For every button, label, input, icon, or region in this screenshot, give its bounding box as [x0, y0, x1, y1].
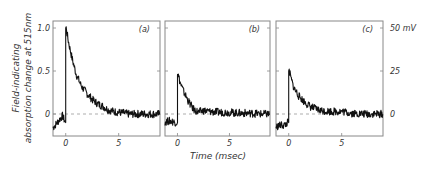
panel-frame	[276, 21, 383, 136]
right-tick-label: 50 mV	[390, 24, 417, 33]
panel-label: (c)	[362, 25, 373, 34]
x-tick-label: 5	[339, 139, 344, 148]
signal-trace	[165, 74, 270, 126]
panel-frame	[165, 21, 270, 136]
y-axis-label: Field-indicating absorption change at 51…	[11, 13, 33, 144]
figure: Field-indicating absorption change at 51…	[0, 0, 426, 169]
left-tick-label: 0	[45, 110, 50, 119]
panel-label: (a)	[139, 25, 150, 34]
y-axis-label-line-2: absorption change at 515nm	[23, 13, 33, 144]
x-tick-label: 0	[286, 139, 291, 148]
right-tick-label: 0	[390, 110, 395, 119]
right-tick-label: 25	[390, 67, 400, 76]
x-tick-label: 0	[175, 139, 180, 148]
x-tick-label: 0	[63, 139, 68, 148]
x-tick-label: 5	[227, 139, 232, 148]
signal-trace	[53, 27, 160, 130]
signal-trace	[276, 69, 383, 130]
right-y-tick-labels: 02550 mV	[390, 24, 417, 119]
panel-a: 05(a)	[53, 21, 160, 148]
y-axis-label-line-1: Field-indicating	[11, 43, 21, 112]
panel-label: (b)	[249, 25, 260, 34]
panel-frame	[53, 21, 160, 136]
x-axis-label: Time (msec)	[190, 151, 246, 161]
panel-c: 05(c)	[276, 21, 383, 148]
panel-b: 05(b)	[165, 21, 270, 148]
left-y-tick-labels: 00.51.0	[37, 24, 50, 119]
chart-panels: 05(a)05(b)05(c)	[53, 21, 383, 148]
left-tick-label: 1.0	[37, 24, 50, 33]
left-tick-label: 0.5	[37, 67, 50, 76]
x-tick-label: 5	[116, 139, 121, 148]
